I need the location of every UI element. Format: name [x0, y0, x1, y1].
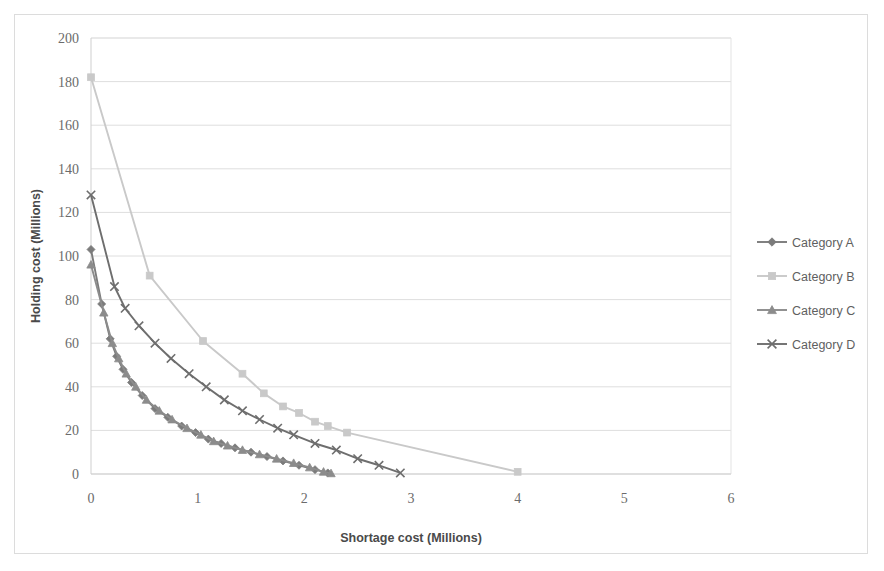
- y-axis-tick-label: 100: [58, 249, 79, 264]
- data-point-marker: [289, 431, 297, 439]
- data-point-marker: [146, 272, 153, 279]
- data-point-marker: [255, 415, 263, 423]
- data-point-marker: [167, 354, 175, 362]
- data-point-marker: [273, 424, 281, 432]
- data-point-marker: [396, 469, 404, 477]
- y-axis-tick-label: 20: [65, 423, 79, 438]
- data-point-marker: [100, 308, 108, 316]
- x-axis-tick-label: 0: [88, 491, 95, 506]
- y-axis-tick-label: 0: [72, 467, 79, 482]
- legend: Category ACategory BCategory CCategory D: [757, 236, 855, 352]
- legend-item-label: Category B: [792, 270, 855, 284]
- data-point-marker: [238, 407, 246, 415]
- data-point-marker: [514, 468, 521, 475]
- data-point-marker: [324, 423, 331, 430]
- legend-item-label: Category A: [792, 236, 855, 250]
- x-axis-tick-label: 2: [301, 491, 308, 506]
- series-category-b: [88, 74, 521, 475]
- y-axis-tick-label: 40: [65, 380, 79, 395]
- y-axis-tick-label: 200: [58, 31, 79, 46]
- x-axis-title: Shortage cost (Millions): [340, 531, 482, 545]
- data-point-marker: [185, 370, 193, 378]
- data-point-marker: [312, 418, 319, 425]
- y-axis-tick-label: 180: [58, 75, 79, 90]
- x-axis-tick-label: 6: [728, 491, 735, 506]
- series-category-a: [87, 245, 332, 476]
- data-point-marker: [121, 304, 129, 312]
- data-point-marker: [200, 338, 207, 345]
- x-axis-tick-label: 3: [408, 491, 415, 506]
- series-category-c: [87, 261, 335, 477]
- x-axis-tick-label: 5: [621, 491, 628, 506]
- data-point-marker: [260, 390, 267, 397]
- data-point-marker: [344, 429, 351, 436]
- y-axis-tick-label: 80: [65, 293, 79, 308]
- data-point-marker: [239, 370, 246, 377]
- legend-item-label: Category C: [792, 304, 855, 318]
- chart-canvas: 0204060801001201401601802000123456Shorta…: [15, 15, 869, 555]
- data-point-marker: [87, 245, 95, 253]
- y-axis-tick-label: 120: [58, 205, 79, 220]
- chart-frame: 0204060801001201401601802000123456Shorta…: [14, 14, 868, 554]
- legend-marker-swatch: [768, 238, 776, 246]
- data-point-marker: [280, 403, 287, 410]
- x-axis-tick-label: 1: [194, 491, 201, 506]
- data-point-marker: [135, 322, 143, 330]
- y-axis-tick-label: 140: [58, 162, 79, 177]
- legend-marker-swatch: [768, 272, 775, 279]
- data-point-marker: [88, 74, 95, 81]
- y-axis-tick-label: 160: [58, 118, 79, 133]
- x-axis-tick-label: 4: [514, 491, 521, 506]
- data-point-marker: [220, 396, 228, 404]
- legend-item-label: Category D: [792, 338, 855, 352]
- y-axis-title: Holding cost (Millions): [29, 189, 43, 323]
- y-axis-tick-label: 60: [65, 336, 79, 351]
- data-point-marker: [296, 410, 303, 417]
